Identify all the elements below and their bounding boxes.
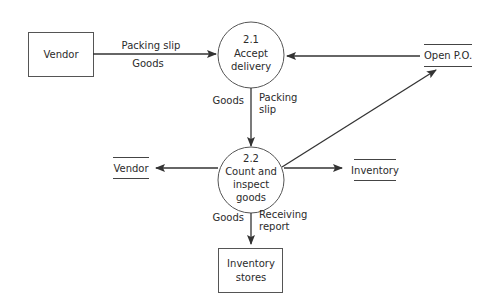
flow-count-to-openpo [282, 70, 436, 167]
open-po-store: Open P.O. [424, 45, 472, 67]
inventory-store: Inventory [351, 160, 399, 181]
flow-label-report: report [259, 221, 290, 232]
process-count-inspect: 2.2 Count and inspect goods [218, 147, 284, 213]
process-label-line2: inspect [233, 179, 269, 190]
process-label-line1: Count and [225, 166, 277, 177]
flow-vendor-to-accept: Packing slip Goods [93, 40, 216, 69]
vendor-store: Vendor [113, 158, 149, 179]
flow-count-to-inventory-stores: Goods Receiving report [212, 209, 307, 244]
flow-label-goods: Goods [212, 95, 244, 106]
flow-label-receiving: Receiving [259, 209, 307, 220]
process-number: 2.2 [243, 153, 259, 164]
process-label-line2: delivery [231, 61, 271, 72]
inventory-stores-line2: stores [236, 272, 267, 283]
flow-label-packing: Packing [259, 92, 297, 103]
open-po-label: Open P.O. [424, 50, 472, 61]
process-label-line1: Accept [234, 48, 268, 59]
inventory-stores-entity: Inventory stores [219, 249, 283, 293]
data-flow-diagram: Vendor Packing slip Goods 2.1 Accept del… [0, 0, 501, 303]
flow-label-slip: slip [259, 104, 276, 115]
inventory-store-label: Inventory [351, 165, 399, 176]
vendor-entity-label: Vendor [43, 49, 79, 60]
vendor-store-label: Vendor [113, 163, 149, 174]
inventory-stores-line1: Inventory [227, 258, 275, 269]
flow-label-goods: Goods [212, 212, 244, 223]
flow-label-packing-slip: Packing slip [122, 40, 181, 51]
process-label-line3: goods [236, 192, 266, 203]
flow-label-goods: Goods [132, 58, 164, 69]
process-accept-delivery: 2.1 Accept delivery [218, 22, 284, 88]
flow-accept-to-count: Goods Packing slip [212, 88, 297, 146]
vendor-entity: Vendor [29, 33, 94, 77]
process-number: 2.1 [243, 34, 259, 45]
